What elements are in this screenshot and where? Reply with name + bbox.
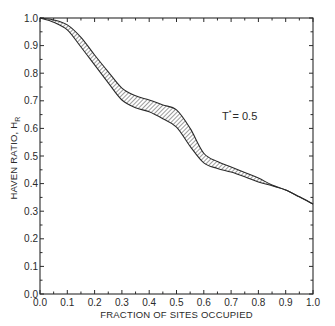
y-tick-label: 0.9 bbox=[24, 40, 38, 51]
y-tick-label: 1.0 bbox=[24, 13, 38, 24]
y-tick-labels: 0.00.10.20.30.40.50.60.70.80.91.0 bbox=[24, 13, 38, 300]
y-tick-label: 0.8 bbox=[24, 68, 38, 79]
y-tick-label: 0.2 bbox=[24, 233, 38, 244]
x-tick-label: 0.5 bbox=[170, 297, 184, 308]
uncertainty-band bbox=[40, 18, 313, 204]
x-tick-label: 0.3 bbox=[115, 297, 129, 308]
x-tick-label: 0.4 bbox=[142, 297, 156, 308]
x-tick-labels: 0.00.10.20.30.40.50.60.70.80.91.0 bbox=[33, 297, 320, 308]
haven-ratio-chart: 0.00.10.20.30.40.50.60.70.80.91.0 0.00.1… bbox=[0, 0, 335, 326]
axis-ticks bbox=[40, 18, 313, 294]
x-axis-title: FRACTION OF SITES OCCUPIED bbox=[100, 309, 252, 320]
x-tick-label: 1.0 bbox=[306, 297, 320, 308]
y-tick-label: 0.4 bbox=[24, 178, 38, 189]
x-tick-label: 0.2 bbox=[88, 297, 102, 308]
temperature-annotation: T*= 0.5 bbox=[222, 109, 257, 122]
y-tick-label: 0.0 bbox=[24, 289, 38, 300]
y-tick-label: 0.7 bbox=[24, 95, 38, 106]
x-tick-label: 0.7 bbox=[224, 297, 238, 308]
x-tick-label: 0.6 bbox=[197, 297, 211, 308]
y-axis-title: HAVEN RATIO, HR bbox=[8, 116, 21, 199]
x-tick-label: 0.9 bbox=[279, 297, 293, 308]
y-tick-label: 0.5 bbox=[24, 151, 38, 162]
plot-frame bbox=[40, 18, 313, 294]
x-tick-label: 0.8 bbox=[251, 297, 265, 308]
y-tick-label: 0.1 bbox=[24, 261, 38, 272]
y-tick-label: 0.3 bbox=[24, 206, 38, 217]
y-tick-label: 0.6 bbox=[24, 123, 38, 134]
x-tick-label: 0.1 bbox=[60, 297, 74, 308]
